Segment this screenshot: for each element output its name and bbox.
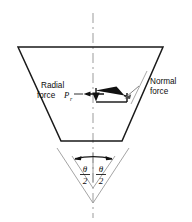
vbelt-groove-diagram: Radial force P r Normal force θ 2 θ 2 <box>0 0 192 222</box>
radial-force-symbol: P <box>63 90 70 100</box>
theta-denominator-right: 2 <box>99 176 104 186</box>
normal-force-label-line2: force <box>150 87 169 96</box>
radial-force-label-line1: Radial <box>41 81 64 90</box>
normal-force-label-line1: Normal <box>150 77 177 86</box>
canvas-background <box>0 0 192 222</box>
theta-symbol-left: θ <box>83 164 88 174</box>
radial-force-label-line2: force <box>37 91 56 100</box>
figure-root: Radial force P r Normal force θ 2 θ 2 <box>0 0 192 222</box>
theta-symbol-right: θ <box>99 164 104 174</box>
theta-denominator-left: 2 <box>83 176 88 186</box>
